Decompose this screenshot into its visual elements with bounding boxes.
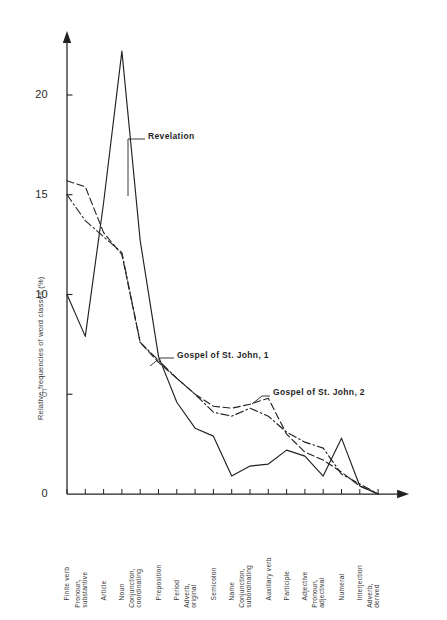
x-axis-label-17: Interjection: [356, 565, 363, 600]
x-axis-label-16: Numeral: [337, 574, 344, 601]
x-axis-label-3: Article: [99, 580, 106, 600]
x-axis-label-5: Conjunction,coordinating: [129, 568, 144, 608]
x-axis-label-10: Name: [227, 582, 234, 601]
chart-figure: 05101520 Relative frequencies of word cl…: [0, 0, 447, 620]
series-annotation-1: Revelation: [148, 131, 195, 141]
x-axis-label-18: Adverb,derived: [366, 583, 381, 607]
x-axis-label-6: Preposition: [154, 565, 161, 601]
x-axis-label-2: Pronoun,substantive: [74, 572, 89, 608]
x-axis-label-15: Pronoun,adjectival: [312, 578, 327, 608]
x-axis-label-7: Period: [173, 580, 180, 601]
series-annotation-2: Gospel of St. John, 1: [177, 350, 269, 360]
series-annotation-3: Gospel of St. John, 2: [273, 387, 365, 397]
x-axis-label-14: Adjective: [301, 571, 308, 600]
x-axis-label-13: Participle: [282, 571, 289, 601]
x-axis-label-12: Auxiliary verb: [264, 557, 271, 600]
x-axis-label-9: Semicolon: [209, 567, 216, 600]
x-axis-label-4: Noun: [118, 584, 125, 601]
x-axis-label-8: Adverb,original: [183, 583, 198, 607]
x-axis-tick-labels: Finite verbPronoun,substantiveArticleNou…: [0, 0, 447, 620]
x-axis-label-11: Conjunction,subordinating: [238, 565, 253, 608]
x-axis-label-1: Finite verb: [63, 567, 70, 601]
